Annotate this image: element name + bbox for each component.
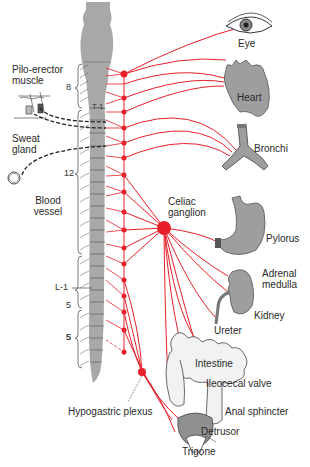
label-kidney: Kidney: [254, 310, 285, 321]
label-blood-vessel: Blood vessel: [28, 195, 68, 217]
level-lumbar: 5: [66, 300, 71, 310]
label-anal-sphincter: Anal sphincter: [225, 406, 288, 417]
label-sweat-gland: Sweat gland: [12, 133, 52, 155]
label-ileocecal-valve: Ileocecal valve: [206, 378, 272, 389]
label-pylorus: Pylorus: [266, 233, 299, 244]
spinal-brackets: [75, 64, 82, 368]
label-adrenal-medulla: Adrenal medulla: [262, 268, 306, 290]
label-eye: Eye: [238, 38, 255, 49]
kidney-icon: [216, 270, 254, 324]
label-ureter: Ureter: [214, 325, 242, 336]
label-detrusor: Detrusor: [201, 426, 239, 437]
label-heart: Heart: [237, 92, 261, 103]
label-hypogastric-plexus: Hypogastric plexus: [68, 406, 152, 417]
level-thoracic-12: 12: [64, 168, 74, 178]
label-bronchi: Bronchi: [254, 143, 288, 154]
spinal-cord: [80, 2, 113, 383]
label-celiac-ganglion: Celiac ganglion: [168, 196, 212, 218]
heart-icon: [224, 60, 269, 116]
level-l1: L-1: [55, 282, 68, 292]
label-pilo-erector-muscle: Pilo-erector muscle: [12, 64, 68, 86]
label-trigone: Trigone: [182, 446, 216, 457]
celiac-ganglion-node: [157, 221, 171, 235]
eye-icon: [226, 13, 272, 33]
label-intestine: Intestine: [195, 358, 233, 369]
hypogastric-plexus-node: [138, 368, 146, 376]
level-sacral: 5: [66, 332, 71, 342]
stomach-icon: [215, 196, 265, 255]
level-t1: T-1: [92, 102, 104, 111]
skin-illustration: [14, 92, 50, 118]
